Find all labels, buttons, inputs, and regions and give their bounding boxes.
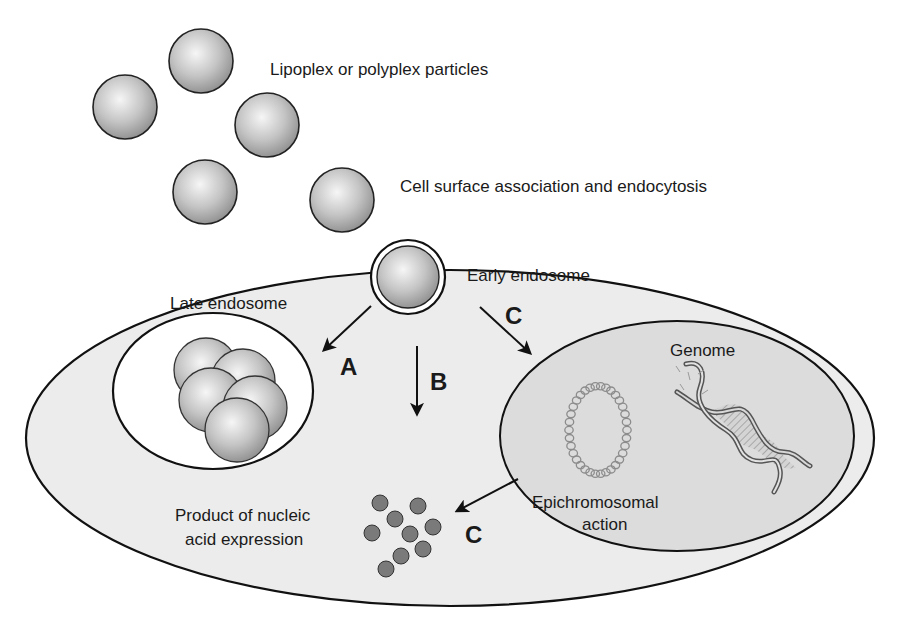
pathway-c-upper-label: C [505,302,522,329]
product-label-line1: Product of nucleic [175,506,311,525]
surface-association-label: Cell surface association and endocytosis [400,177,707,196]
product-dot [364,525,380,541]
lipoplex-particle [169,29,233,93]
product-dot [387,511,403,527]
lipoplex-particle [235,93,299,157]
pathway-b-label: B [430,368,447,395]
product-dot [378,561,394,577]
particles-label: Lipoplex or polyplex particles [270,60,488,79]
product-dot [425,519,441,535]
pathway-c-lower-label: C [465,521,482,548]
aggregated-particle [205,398,269,462]
product-dot [410,498,426,514]
product-dot [372,495,388,511]
epichromosomal-label-line1: Epichromosomal [532,493,659,512]
free-particles [93,29,299,224]
epichromosomal-label-line2: action [582,515,627,534]
early-endosome [371,240,445,314]
surface-bound-particle [310,168,374,232]
late-endosome [113,313,313,469]
product-dot [402,526,418,542]
genome-label: Genome [670,341,735,360]
gene-delivery-diagram: Lipoplex or polyplex particles Cell surf… [0,0,897,628]
product-dot [415,541,431,557]
early-endosome-label: Early endosome [467,266,590,285]
late-endosome-label: Late endosome [170,294,287,313]
product-dot [393,548,409,564]
endosome-particle [377,246,439,308]
lipoplex-particle [173,160,237,224]
pathway-a-label: A [340,353,357,380]
product-label-line2: acid expression [185,530,303,549]
lipoplex-particle [93,75,157,139]
